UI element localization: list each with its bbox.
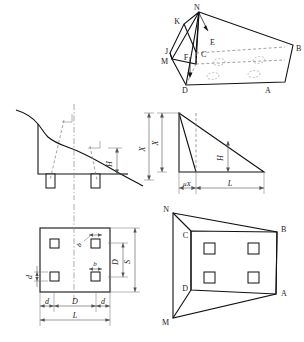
- triangle-label-L: L: [227, 179, 233, 188]
- triangle-label-muX: μX: [183, 180, 192, 188]
- plan-footing-top-left: [50, 239, 59, 248]
- iso-top-face: [186, 12, 293, 85]
- persp-footing-top-right: [248, 243, 259, 254]
- slip-line-left: [50, 120, 64, 180]
- plan-S-arrow-top: [133, 228, 136, 233]
- triangle-inner-slope: [179, 113, 196, 172]
- slope-terrain-section: H X: [16, 104, 154, 200]
- section-label-X: X: [138, 145, 147, 152]
- iso-label-D: D: [182, 86, 188, 95]
- persp-label-C: C: [183, 231, 188, 240]
- iso-label-N: N: [194, 3, 200, 12]
- iso-footing-2: [253, 56, 266, 64]
- H-arrow-top: [115, 148, 119, 153]
- ground-surface-line: [16, 110, 143, 186]
- section-footing-left: [46, 174, 55, 188]
- iso-label-A: A: [265, 86, 271, 95]
- iso-footing-1: [213, 58, 226, 66]
- plan-label-L: L: [72, 311, 78, 320]
- plan-label-b-upper: b: [75, 241, 84, 249]
- iso-label-C: C: [201, 50, 206, 59]
- persp-footing-top-left: [204, 243, 215, 254]
- plan-outline: [40, 228, 110, 292]
- triangle-X-arrow-bottom: [160, 167, 164, 172]
- plan-footing-bottom-left: [50, 272, 59, 281]
- section-X-arrow-top: [147, 113, 151, 118]
- plan-d-vert-arrow-top: [35, 272, 38, 276]
- triangle-H-arrow-bottom: [226, 167, 230, 172]
- plan-label-S: S: [123, 260, 132, 264]
- triangle-L-arrow-right: [259, 186, 264, 190]
- iso-label-K: K: [174, 17, 180, 26]
- iso-label-M: M: [161, 57, 168, 66]
- foundation-plan-view: b b d D S: [25, 204, 140, 326]
- triangle-X-arrow-top: [160, 113, 164, 118]
- section-footing-right: [91, 174, 100, 188]
- persp-label-B: B: [281, 225, 286, 234]
- isometric-wedge-view: N K E J M F C B D A: [161, 3, 301, 95]
- plan-D-arrow-left: [54, 304, 59, 307]
- plan-label-d-right: d: [101, 297, 106, 306]
- figure-canvas: N K E J M F C B D A: [0, 0, 304, 342]
- plan-d-right-arrow-a: [96, 304, 101, 307]
- persp-label-N: N: [163, 205, 169, 214]
- triangle-label-X: X: [151, 139, 160, 146]
- plan-label-Q: D: [111, 259, 120, 266]
- triangle-H-arrow-top: [226, 141, 230, 146]
- iso-footing-3: [207, 72, 220, 80]
- iso-arrow-head: [204, 25, 209, 31]
- persp-inner-quad: [191, 231, 277, 294]
- persp-label-D: D: [182, 284, 188, 293]
- plan-b-lower-arrow-right: [98, 267, 102, 270]
- iso-label-E: E: [210, 38, 215, 47]
- plan-Q-arrow-top: [121, 243, 124, 248]
- plan-label-d-vert: d: [25, 274, 34, 279]
- plan-label-d-left: d: [45, 297, 50, 306]
- triangle-label-H: H: [216, 154, 225, 162]
- plan-d-vert-arrow-bottom: [35, 277, 38, 281]
- plan-d-left-arrow-a: [40, 304, 45, 307]
- plan-d-right-arrow-b: [105, 304, 110, 307]
- triangle-muX-arrow-right: [191, 186, 196, 190]
- plan-d-left-arrow-b: [49, 304, 54, 307]
- iso-footing-marks: [207, 56, 266, 80]
- section-label-H: H: [105, 160, 114, 168]
- plan-label-D: D: [71, 297, 78, 306]
- persp-label-M: M: [162, 318, 169, 327]
- section-X-arrow-bottom: [147, 175, 151, 180]
- plan-footing-bottom-right: [91, 272, 100, 281]
- slip-bracket-lower: [88, 141, 100, 148]
- idealized-slope-triangle: H X μX L: [151, 113, 264, 194]
- plan-D-arrow-right: [91, 304, 96, 307]
- iso-hidden-line-C-B: [196, 47, 285, 53]
- plan-L-arrow-left: [40, 318, 45, 321]
- persp-footing-bottom-right: [248, 272, 259, 283]
- plan-footing-top-right: [91, 239, 100, 248]
- engineering-figure: N K E J M F C B D A: [0, 0, 304, 342]
- plan-L-arrow-right: [105, 318, 110, 321]
- iso-label-J: J: [165, 47, 168, 56]
- plan-S-arrow-bottom: [133, 287, 136, 292]
- plan-b-upper-arrow-right: [98, 233, 102, 236]
- plan-label-b-lower: b: [93, 260, 97, 268]
- persp-edge-M-D: [173, 290, 191, 318]
- iso-label-F: F: [184, 53, 189, 62]
- persp-footing-bottom-left: [204, 272, 215, 283]
- persp-label-A: A: [281, 289, 287, 298]
- iso-label-B: B: [296, 44, 301, 53]
- triangle-outline: [179, 113, 264, 172]
- iso-hidden-line-lower: [196, 60, 285, 64]
- triangle-L-arrow-left: [196, 186, 201, 190]
- plan-b-upper-leader: [84, 236, 90, 241]
- iso-footing-4: [248, 70, 261, 78]
- plan-Q-arrow-bottom: [121, 272, 124, 277]
- foundation-perspective-view: N C B D A M: [162, 205, 287, 327]
